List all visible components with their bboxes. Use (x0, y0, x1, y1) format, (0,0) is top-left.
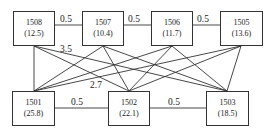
node-value: (12.5) (14, 28, 54, 39)
edge-label-cross-2-7: 2.7 (90, 80, 102, 90)
node-value: (22.1) (109, 108, 149, 119)
edge-label-1508-1507: 0.5 (60, 14, 72, 24)
edge-label-1506-1505: 0.5 (197, 14, 209, 24)
node-1507: 1507 (10.4) (82, 11, 124, 46)
node-id: 1503 (207, 97, 248, 108)
node-1502: 1502 (22.1) (108, 91, 150, 126)
node-value: (18.5) (207, 108, 248, 119)
node-1505: 1505 (13.6) (220, 11, 263, 46)
node-1508: 1508 (12.5) (13, 11, 55, 46)
node-id: 1506 (152, 17, 192, 28)
node-id: 1507 (83, 17, 123, 28)
edge-label-1507-1506: 0.5 (128, 14, 140, 24)
node-id: 1505 (221, 17, 262, 28)
node-value: (10.4) (83, 28, 123, 39)
edge-label-1501-1502: 0.5 (71, 97, 83, 107)
node-value: (11.7) (152, 28, 192, 39)
node-id: 1501 (13, 97, 54, 108)
node-1503: 1503 (18.5) (206, 91, 249, 126)
node-id: 1502 (109, 97, 149, 108)
edge-label-cross-3-5: 3.5 (60, 44, 72, 54)
node-value: (13.6) (221, 28, 262, 39)
node-id: 1508 (14, 17, 54, 28)
edge-label-1502-1503: 0.5 (168, 97, 180, 107)
node-1501: 1501 (25.8) (12, 91, 55, 126)
node-value: (25.8) (13, 108, 54, 119)
node-1506: 1506 (11.7) (151, 11, 193, 46)
